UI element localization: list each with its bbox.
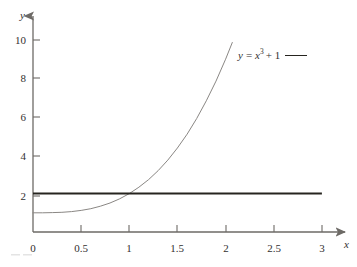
legend-equals: = [246,49,252,61]
y-tick-label-6: 6 [2,112,26,123]
x-tick-label-0-5: 0.5 [70,243,92,254]
y-tick-label-4: 4 [2,151,26,162]
y-axis-label: y [20,10,25,21]
legend-exponent: 3 [260,47,264,56]
legend-y-symbol: y [238,49,243,61]
x-axis-label: x [344,239,349,250]
x-tick-label-2: 2 [215,243,237,254]
y-tick-label-2: 2 [2,191,26,202]
x-axis-ticks [81,225,322,232]
legend-label: y=x3+ 1 [238,49,280,61]
x-tick-label-1: 1 [118,243,140,254]
page-artifact [11,252,33,259]
x-tick-label-1-5: 1.5 [166,243,188,254]
curve-cubic [33,43,232,213]
x-tick-label-3: 3 [311,243,333,254]
legend-line-swatch [285,55,307,56]
plot-canvas [0,0,357,267]
legend: y=x3+ 1 [238,49,307,61]
legend-suffix: + 1 [266,49,280,61]
y-tick-label-10: 10 [2,35,26,46]
function-plot-figure: 10 8 6 4 2 0 0.5 1 1.5 2 2.5 3 y x y=x3+… [0,0,357,267]
y-axis-ticks [33,40,40,196]
x-tick-label-2-5: 2.5 [263,243,285,254]
y-tick-label-8: 8 [2,73,26,84]
